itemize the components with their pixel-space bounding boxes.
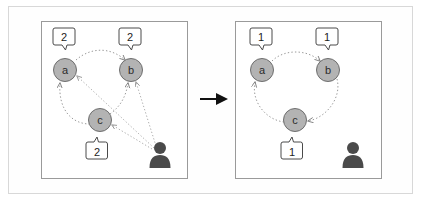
before-panel	[41, 21, 188, 179]
diagram-figure: a b c 2 2 2 a b c 1 1 1	[0, 0, 423, 203]
after-panel	[235, 21, 382, 179]
